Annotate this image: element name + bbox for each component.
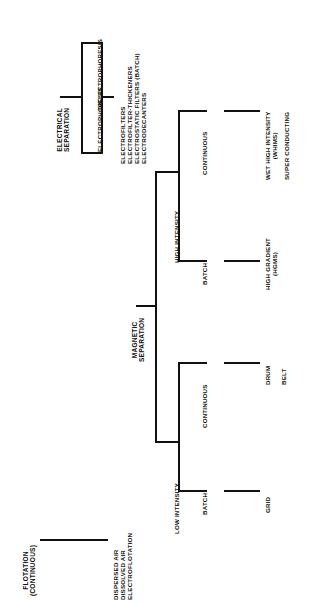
low-output-belt: BELT <box>281 369 288 386</box>
high-output-high-gradient: HIGH GRADIENT(HGMS) <box>265 238 279 290</box>
magnetic-root-connector <box>136 305 156 307</box>
electrical-branch-label-dielectrophoresis: DIELECTROPHORESIS <box>97 39 104 110</box>
high-intensity-arm-batch <box>178 260 207 262</box>
magnetic-separation-root-label: MAGNETICSEPARATION <box>131 318 146 362</box>
electrical-output-electrodecanters: ELECTRODECANTERS <box>141 93 148 164</box>
flotation-connector <box>40 539 108 541</box>
high-output-wet-high-intensity: WET HIGH INTENSITY(WHIMS) <box>265 111 279 180</box>
electrical-bracket-spine <box>81 42 83 154</box>
separation-methods-tree-diagram: ELECTRICALSEPARATION ELECTROPHORESIS DIE… <box>0 0 318 604</box>
low-intensity-mode-batch-label: BATCH <box>202 493 209 515</box>
flotation-output-electroflotation: ELECTROFLOTATION <box>127 533 134 600</box>
low-intensity-spine <box>178 362 180 492</box>
high-intensity-spine <box>178 110 180 262</box>
high-intensity-arm-continuous <box>178 110 207 112</box>
low-intensity-mode-continuous-label: CONTINUOUS <box>202 384 209 428</box>
continuous-high-output-connector <box>224 110 260 112</box>
magnetic-arm-low-intensity <box>155 441 179 443</box>
low-intensity-arm-batch <box>178 490 207 492</box>
high-output-super-conducting: SUPER CONDUCTING <box>284 112 291 180</box>
electrical-branch-arm-electrophoresis <box>81 152 102 154</box>
high-intensity-mode-batch-label: BATCH <box>202 263 209 285</box>
low-output-drum: DRUM <box>265 366 272 385</box>
high-intensity-mode-continuous-label: CONTINUOUS <box>202 131 209 175</box>
low-intensity-arm-continuous <box>178 362 207 364</box>
continuous-low-output-connector <box>224 362 260 364</box>
magnetic-arm-high-intensity <box>155 171 179 173</box>
batch-high-output-connector <box>224 260 260 262</box>
magnetic-trunk-spine <box>155 171 157 443</box>
flotation-root-label: FLOTATION(CONTINUOUS) <box>22 545 37 596</box>
electrical-separation-root-label: ELECTRICALSEPARATION <box>56 108 71 152</box>
low-output-grid: GRID <box>265 497 272 513</box>
electrical-root-connector <box>60 96 82 98</box>
batch-low-output-connector <box>224 490 260 492</box>
